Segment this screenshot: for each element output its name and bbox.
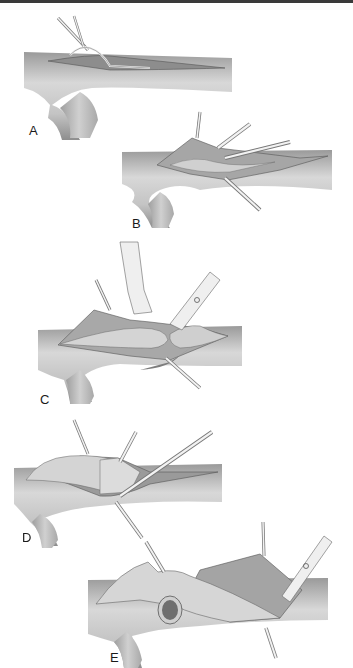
panel-e: E bbox=[80, 510, 353, 668]
illustration-e bbox=[80, 510, 353, 668]
panel-label-e: E bbox=[110, 650, 119, 665]
panel-label-d: D bbox=[22, 530, 31, 545]
panel-label-c: C bbox=[40, 392, 49, 407]
panel-label-b: B bbox=[132, 216, 141, 231]
illustration-c bbox=[20, 230, 310, 410]
panel-b: B bbox=[100, 110, 353, 250]
panel-c: C bbox=[20, 230, 310, 410]
panel-label-a: A bbox=[29, 123, 38, 138]
